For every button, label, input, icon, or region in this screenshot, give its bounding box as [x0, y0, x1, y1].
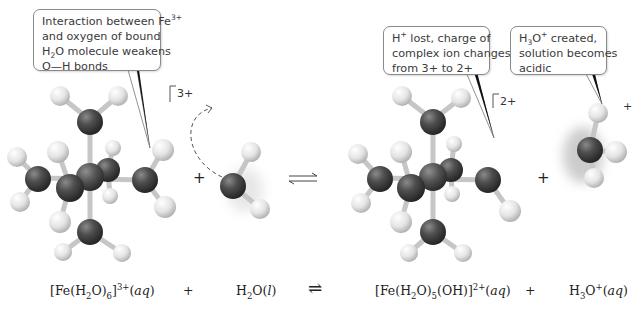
equation-plus-1: + [183, 283, 193, 298]
bracket-right [493, 94, 499, 108]
equation-equilibrium-arrow: ⇌ [308, 278, 322, 298]
callout-text: and oxygen of bound [42, 29, 152, 44]
callout-text: O—H bonds [42, 59, 152, 74]
arrowhead-icon [206, 105, 212, 113]
callout-text: lost, charge of [407, 32, 491, 45]
callout-pointers [128, 70, 602, 148]
superscript: 3+ [171, 13, 182, 22]
right-complex-molecule [348, 86, 521, 262]
callout-text: complex ion changes [392, 46, 481, 61]
equation-reactant-complex: [Fe(H2O)6]3+(aq) [50, 283, 155, 298]
callout-h3o-created: H3O+ created, solution becomes acidic [510, 26, 607, 75]
hydronium-charge: + [623, 100, 632, 113]
callout-text: from 3+ to 2+ [392, 61, 481, 76]
plus-sign-right: + [537, 169, 550, 187]
callout-text: created, [547, 32, 597, 45]
equation-plus-2: + [525, 283, 535, 298]
callout-text: acidic [519, 61, 598, 76]
bracket-left [170, 86, 176, 102]
plus-sign-left: + [193, 169, 206, 187]
callout-text: Interaction between Fe [42, 15, 171, 28]
proton-transfer-arrow [191, 108, 222, 177]
callout-text: O molecule weakens [55, 45, 171, 58]
hydronium-molecule [563, 103, 627, 188]
callout-text: solution becomes [519, 46, 598, 61]
equation-hydronium: H3O+(aq) [569, 283, 628, 298]
callout-fe-interaction: Interaction between Fe3+ and oxygen of b… [33, 9, 161, 71]
equation-water: H2O(l) [236, 283, 276, 298]
right-complex-charge: 2+ [500, 95, 516, 108]
equilibrium-arrow-diagram [289, 173, 317, 184]
left-complex-charge: 3+ [177, 87, 193, 100]
water-molecule [220, 142, 270, 219]
callout-h-lost: H+ lost, charge of complex ion changes f… [383, 26, 490, 75]
left-complex-molecule [7, 86, 176, 262]
equation-product-complex: [Fe(H2O)5(OH)]2+(aq) [375, 283, 511, 298]
callout-text: O [532, 32, 541, 45]
